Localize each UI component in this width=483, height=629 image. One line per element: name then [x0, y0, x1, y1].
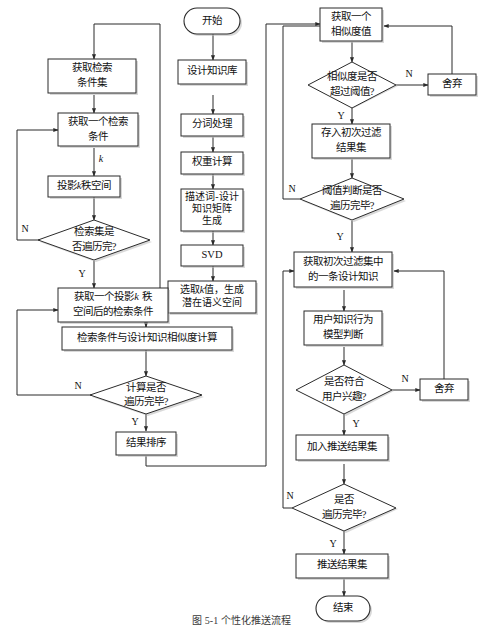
node-r1-label-line2: 相似度值: [331, 25, 372, 37]
node-r12-label: 推送结果集: [317, 558, 368, 570]
node-c4-weight-calculation[interactable]: 权重计算: [181, 152, 245, 176]
node-c7-latent-semantic-space[interactable]: 选取k值，生成 潜在语义空间: [168, 281, 258, 315]
node-l7-label-line1: 计算是否: [126, 381, 167, 393]
node-l2-label-line2: 条件: [88, 130, 108, 142]
node-r2-label-line2: 超过阈值?: [330, 85, 375, 97]
node-c4-label: 权重计算: [192, 155, 232, 167]
node-l8-label: 结果排序: [126, 436, 166, 448]
node-c1-label: 开始: [202, 14, 223, 26]
node-r11-traversed-decision[interactable]: 是否 遍历完毕?: [292, 484, 398, 533]
edge-label-l4-yes: Y: [78, 268, 85, 279]
node-l2-get-one-query-condition[interactable]: 获取一个检索 条件: [58, 113, 140, 148]
edge-label-r11-yes: Y: [329, 538, 336, 549]
edge-label-r5-no: N: [288, 183, 295, 194]
edge-label-r5-yes: Y: [336, 231, 343, 242]
node-l8-sort-results[interactable]: 结果排序: [116, 432, 178, 457]
node-r8-label-line2: 用户兴趣?: [322, 390, 367, 402]
node-c5-label-line3: 生成: [202, 214, 222, 226]
node-r1-label-line1: 获取一个: [331, 11, 372, 22]
edge-r5-r1-no: [283, 26, 320, 199]
node-l1-label-line2: 条件集: [77, 76, 108, 88]
node-l4-label-line1: 检索集是: [74, 225, 115, 237]
node-l7-calculation-traversed-decision[interactable]: 计算是否 遍历完毕?: [90, 376, 204, 416]
node-r7-user-behavior-model[interactable]: 用户知识行为 模型判断: [304, 311, 384, 347]
node-c3-label: 分词处理: [192, 118, 233, 129]
edge-label-r2-yes: Y: [337, 110, 344, 121]
node-c5-label-line2: 知识矩阵: [192, 202, 232, 214]
node-r8-user-interest-decision[interactable]: 是否符合 用户兴趣?: [296, 365, 394, 416]
node-r9-label: 舍弃: [434, 382, 454, 394]
node-r9-discard-interest[interactable]: 舍弃: [420, 379, 470, 402]
node-r4-label-line1: 存入初次过滤: [321, 126, 382, 138]
edge-label-l7-no: N: [74, 380, 81, 391]
node-c5-matrix-generation[interactable]: 描述词-设计 知识矩阵 生成: [181, 189, 245, 233]
edge-r11-r6-no: [283, 271, 294, 508]
figure-caption: 图 5-1 个性化推送流程: [0, 612, 483, 627]
node-r8-label-line1: 是否符合: [324, 375, 365, 387]
node-l6-similarity-calculation[interactable]: 检索条件与设计知识相似度计算: [62, 327, 234, 352]
node-r2-threshold-decision[interactable]: 相似度是否 超过阈值?: [308, 62, 398, 108]
node-l5-get-projected-condition[interactable]: 获取一个投影k 秩 空间后的检索条件: [58, 288, 170, 324]
node-c2-label: 设计知识库: [187, 64, 237, 76]
node-l4-query-set-traversed-decision[interactable]: 检索集是 否遍历完?: [38, 220, 152, 262]
edge-label-r11-no: N: [286, 490, 293, 501]
edge-r3-r1: [384, 26, 452, 74]
edge-label-r8-yes: Y: [352, 418, 359, 429]
node-l5-label-line1: 获取一个投影k 秩: [74, 290, 152, 302]
node-l4-label-line2: 否遍历完?: [72, 240, 117, 252]
flowchart-svg: k N Y N Y N: [0, 0, 483, 629]
node-c5-label-line1: 描述词-设计: [185, 190, 238, 202]
node-c1-start[interactable]: 开始: [184, 8, 242, 36]
node-c2-knowledge-base[interactable]: 设计知识库: [178, 60, 248, 86]
node-r3-discard-threshold[interactable]: 舍弃: [428, 74, 478, 97]
edge-label-r8-no: N: [401, 373, 408, 384]
node-r11-label-line2: 遍历完毕?: [322, 508, 367, 520]
node-r10-add-to-push-result[interactable]: 加入推送结果集: [296, 435, 390, 462]
node-r2-label-line1: 相似度是否: [327, 70, 378, 82]
node-l1-get-query-condition-set[interactable]: 获取检索 条件集: [48, 59, 138, 95]
node-r4-store-first-filter-result[interactable]: 存入初次过滤 结果集: [312, 124, 392, 160]
edge-label-l4-no: N: [21, 223, 28, 234]
node-l3-label: 投影k秩空间: [57, 179, 112, 191]
node-c6-svd[interactable]: SVD: [181, 245, 245, 268]
edge-r9-r6: [394, 271, 444, 379]
node-r12-push-result-set[interactable]: 推送结果集: [296, 554, 390, 580]
node-r6-label-line2: 的一条设计知识: [308, 270, 378, 282]
node-r5-label-line2: 遍历完毕?: [330, 199, 375, 211]
node-r7-label-line1: 用户知识行为: [313, 313, 373, 325]
node-c3-word-segmentation[interactable]: 分词处理: [181, 114, 245, 138]
node-r6-label-line1: 获取初次过滤集中: [303, 255, 383, 267]
node-l2-label-line1: 获取一个检索: [68, 115, 128, 127]
node-r7-label-line2: 模型判断: [323, 328, 364, 340]
edge-label-k: k: [99, 153, 104, 164]
node-c7-label-line2: 潜在语义空间: [182, 296, 242, 308]
edge-label-l7-yes: Y: [131, 416, 138, 427]
node-c7-label-line1: 选取k值，生成: [180, 283, 244, 295]
node-c6-label: SVD: [201, 249, 222, 260]
node-r5-label-line1: 阈值判断是否: [322, 184, 383, 196]
node-l5-label-line2: 空间后的检索条件: [73, 305, 153, 317]
node-r10-label: 加入推送结果集: [307, 440, 378, 452]
edge-label-r2-no: N: [405, 68, 412, 79]
node-r4-label-line2: 结果集: [336, 141, 367, 153]
node-r5-threshold-traversed-decision[interactable]: 阈值判断是否 遍历完毕?: [300, 178, 406, 222]
node-r3-label: 舍弃: [442, 77, 462, 89]
node-l7-label-line2: 遍历完毕?: [124, 395, 169, 407]
flowchart-canvas: k N Y N Y N: [0, 0, 483, 629]
node-l1-label-line1: 获取检索: [72, 61, 112, 73]
node-r1-get-one-similarity-value[interactable]: 获取一个 相似度值: [320, 8, 384, 43]
node-r11-label-line1: 是否: [334, 494, 355, 505]
node-r6-get-one-design-knowledge[interactable]: 获取初次过滤集中 的一条设计知识: [294, 252, 394, 289]
node-l3-project-k-rank-space[interactable]: 投影k秩空间: [48, 176, 122, 199]
node-l6-label: 检索条件与设计知识相似度计算: [77, 331, 217, 343]
